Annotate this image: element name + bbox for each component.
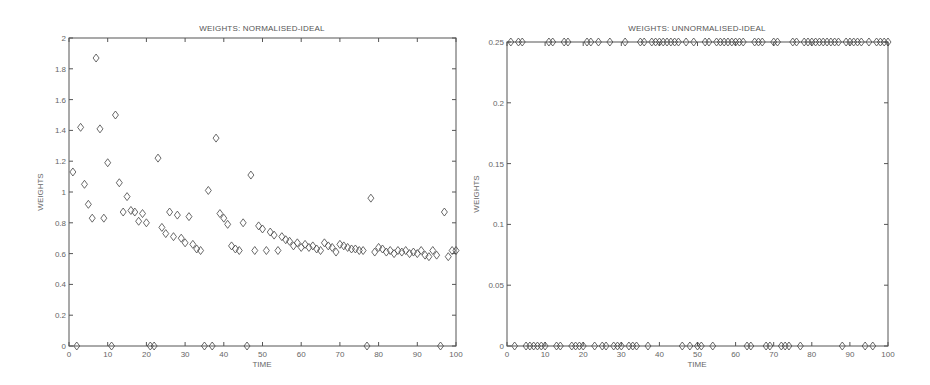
diamond-marker <box>93 54 99 62</box>
diamond-marker <box>140 210 146 218</box>
x-tick-label: 70 <box>769 350 778 359</box>
diamond-marker <box>120 208 126 216</box>
x-tick-label: 90 <box>413 350 422 359</box>
x-axis-label: TIME <box>252 360 271 369</box>
diamond-marker <box>267 228 273 236</box>
chart-title: WEIGHTS: UNNORMALISED-IDEAL <box>628 24 766 33</box>
diamond-marker <box>321 239 327 247</box>
axis-ticks: 010203040506070809010000.20.40.60.811.21… <box>55 34 463 359</box>
y-tick-label: 0.15 <box>488 160 504 169</box>
y-tick-label: 0.1 <box>493 220 505 229</box>
diamond-marker <box>167 208 173 216</box>
y-tick-label: 0.4 <box>55 280 67 289</box>
x-tick-label: 20 <box>579 350 588 359</box>
y-tick-label: 2 <box>62 34 67 43</box>
x-tick-label: 70 <box>335 350 344 359</box>
chart-unnormalised-ideal-svg: WEIGHTS: UNNORMALISED-IDEAL 010203040506… <box>465 0 930 385</box>
diamond-marker <box>170 233 176 241</box>
y-tick-label: 1.6 <box>55 96 67 105</box>
chart-normalised-ideal: WEIGHTS: NORMALISED-IDEAL 01020304050607… <box>0 0 465 385</box>
x-tick-label: 40 <box>219 350 228 359</box>
diamond-marker <box>174 211 180 219</box>
diamond-marker <box>105 159 111 167</box>
x-tick-label: 30 <box>181 350 190 359</box>
diamond-marker <box>136 217 142 225</box>
diamond-marker <box>368 194 374 202</box>
x-tick-label: 0 <box>67 350 72 359</box>
y-tick-label: 0.6 <box>55 250 67 259</box>
diamond-marker <box>97 125 103 133</box>
data-points <box>70 54 459 350</box>
chart-title: WEIGHTS: NORMALISED-IDEAL <box>199 24 325 33</box>
chart-unnormalised-ideal: WEIGHTS: UNNORMALISED-IDEAL 010203040506… <box>465 0 930 385</box>
diamond-marker <box>229 242 235 250</box>
diamond-marker <box>159 223 165 231</box>
x-tick-label: 20 <box>142 350 151 359</box>
chart-normalised-ideal-svg: WEIGHTS: NORMALISED-IDEAL 01020304050607… <box>0 0 465 385</box>
diamond-marker <box>124 193 130 201</box>
data-points <box>508 38 891 350</box>
y-tick-label: 0.05 <box>488 281 504 290</box>
x-tick-label: 90 <box>845 350 854 359</box>
diamond-marker <box>302 240 308 248</box>
y-tick-label: 0 <box>62 342 67 351</box>
diamond-marker <box>225 220 231 228</box>
diamond-marker <box>248 171 254 179</box>
y-axis-label: WEIGHTS <box>472 175 481 212</box>
diamond-marker <box>252 247 258 255</box>
diamond-marker <box>213 134 219 142</box>
x-tick-label: 10 <box>541 350 550 359</box>
diamond-marker <box>275 247 281 255</box>
diamond-marker <box>78 123 84 131</box>
diamond-marker <box>205 186 211 194</box>
diamond-marker <box>279 233 285 241</box>
diamond-marker <box>143 219 149 227</box>
diamond-marker <box>112 111 118 119</box>
diamond-marker <box>256 222 262 230</box>
x-tick-label: 80 <box>374 350 383 359</box>
diamond-marker <box>70 168 76 176</box>
diamond-marker <box>240 219 246 227</box>
x-tick-label: 30 <box>617 350 626 359</box>
y-tick-label: 1 <box>62 188 67 197</box>
diamond-marker <box>445 253 451 261</box>
x-tick-label: 80 <box>807 350 816 359</box>
y-tick-label: 0.2 <box>493 99 505 108</box>
x-tick-label: 10 <box>103 350 112 359</box>
diamond-marker <box>155 154 161 162</box>
y-tick-label: 0 <box>500 342 505 351</box>
x-tick-label: 40 <box>655 350 664 359</box>
x-tick-label: 0 <box>505 350 510 359</box>
diamond-marker <box>101 214 107 222</box>
y-tick-label: 1.4 <box>55 126 67 135</box>
diamond-marker <box>163 230 169 238</box>
axis-ticks: 010203040506070809010000.050.10.150.20.2… <box>488 38 895 359</box>
x-tick-label: 60 <box>297 350 306 359</box>
diamond-marker <box>81 180 87 188</box>
x-tick-label: 60 <box>731 350 740 359</box>
y-tick-label: 1.2 <box>55 157 67 166</box>
x-tick-label: 50 <box>693 350 702 359</box>
diamond-marker <box>89 214 95 222</box>
y-tick-label: 0.8 <box>55 219 67 228</box>
x-axis-label: TIME <box>687 360 706 369</box>
diamond-marker <box>263 247 269 255</box>
x-tick-label: 100 <box>449 350 463 359</box>
y-tick-label: 0.25 <box>488 38 504 47</box>
y-tick-label: 0.2 <box>55 311 67 320</box>
diamond-marker <box>441 208 447 216</box>
y-tick-label: 1.8 <box>55 65 67 74</box>
diamond-marker <box>116 179 122 187</box>
x-tick-label: 50 <box>258 350 267 359</box>
plot-area <box>507 42 888 346</box>
y-axis-label: WEIGHTS <box>36 173 45 210</box>
diamond-marker <box>85 200 91 208</box>
diamond-marker <box>260 225 266 233</box>
diamond-marker <box>360 247 366 255</box>
diamond-marker <box>186 213 192 221</box>
diamond-marker <box>271 231 277 239</box>
x-tick-label: 100 <box>881 350 895 359</box>
diamond-marker <box>391 250 397 258</box>
